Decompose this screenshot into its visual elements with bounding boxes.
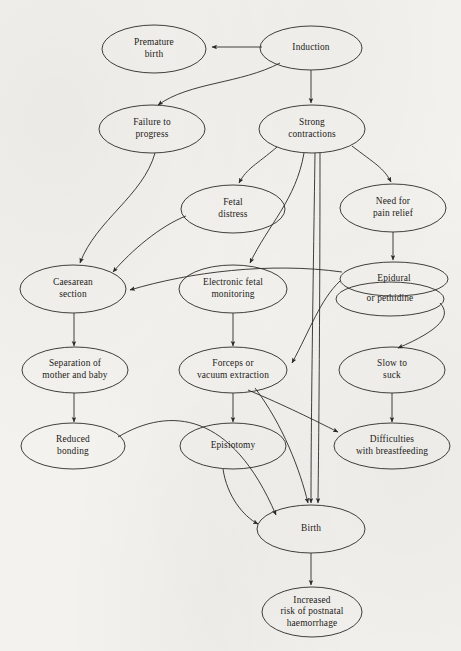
node-premature_birth[interactable]: Prematurebirth [102, 25, 206, 73]
node-label-caesarean_section: Caesarean [53, 277, 93, 287]
node-label-strong_contractions: contractions [288, 129, 336, 139]
node-label-caesarean_section: section [59, 289, 87, 299]
node-label-separation_mother_baby: Separation of [49, 358, 102, 368]
node-label-reduced_bonding: bonding [57, 446, 89, 456]
node-label-failure_to_progress: Failure to [133, 117, 171, 127]
edge-episiotomy-to-birth [223, 469, 258, 524]
edge-strong_contractions-to-electronic_fetal_mon [250, 153, 304, 263]
edge-or_pethidine-to-slow_to_suck [398, 303, 444, 348]
node-label-episiotomy: Episiotomy [211, 440, 256, 450]
node-label-forceps_vacuum: Forceps or [212, 358, 254, 368]
node-episiotomy[interactable]: Episiotomy [180, 423, 286, 469]
edge-fetal_distress-to-caesarean_section [113, 216, 186, 272]
node-label-postnatal_haemorrhage: haemorrhage [287, 618, 338, 628]
node-or_pethidine[interactable]: or pethidine [336, 282, 444, 316]
node-caesarean_section[interactable]: Caesareansection [20, 265, 126, 313]
node-label-or_pethidine: or pethidine [367, 293, 414, 303]
node-label-electronic_fetal_mon: Electronic fetal [203, 277, 263, 287]
node-fetal_distress[interactable]: Fetaldistress [181, 185, 285, 233]
node-label-premature_birth: birth [145, 49, 164, 59]
node-label-fetal_distress: Fetal [223, 197, 243, 207]
edge-strong_contractions-to-birth [311, 153, 315, 503]
node-forceps_vacuum[interactable]: Forceps orvacuum extraction [179, 347, 287, 393]
node-label-need_for_pain_relief: Need for [376, 196, 411, 206]
node-separation_mother_baby[interactable]: Separation ofmother and baby [22, 347, 128, 393]
node-failure_to_progress[interactable]: Failure toprogress [99, 105, 205, 153]
node-reduced_bonding[interactable]: Reducedbonding [21, 423, 125, 469]
edge-induction-to-failure_to_progress [158, 63, 280, 105]
node-label-difficulties_breastfeed: Difficulties [370, 434, 415, 444]
node-label-separation_mother_baby: mother and baby [42, 370, 107, 380]
node-label-difficulties_breastfeed: with breastfeeding [356, 446, 428, 456]
node-induction[interactable]: Induction [260, 26, 362, 70]
edge-strong_contractions-to-need_for_pain_relief [352, 146, 391, 182]
edge-strong_contractions-to-birth_b [318, 153, 320, 503]
node-birth[interactable]: Birth [257, 505, 365, 553]
node-label-slow_to_suck: Slow to [377, 358, 407, 368]
node-label-slow_to_suck: suck [383, 370, 401, 380]
node-label-premature_birth: Premature [134, 37, 174, 47]
node-electronic_fetal_mon[interactable]: Electronic fetalmonitoring [179, 265, 287, 313]
node-label-strong_contractions: Strong [299, 117, 325, 127]
node-label-forceps_vacuum: vacuum extraction [197, 370, 269, 380]
diagram-canvas: PrematurebirthInductionFailure toprogres… [0, 0, 461, 651]
edge-epidural-to-forceps_vacuum [292, 281, 340, 363]
node-difficulties_breastfeed[interactable]: Difficultieswith breastfeeding [334, 423, 450, 469]
edge-strong_contractions-to-fetal_distress [239, 147, 277, 183]
node-postnatal_haemorrhage[interactable]: Increasedrisk of postnatalhaemorrhage [262, 587, 362, 637]
node-strong_contractions[interactable]: Strongcontractions [259, 105, 365, 153]
node-label-postnatal_haemorrhage: Increased [293, 595, 330, 605]
node-epidural[interactable]: Epidural [340, 262, 448, 296]
flowchart-svg: PrematurebirthInductionFailure toprogres… [0, 0, 461, 651]
node-label-electronic_fetal_mon: monitoring [211, 289, 254, 299]
node-label-failure_to_progress: progress [136, 129, 169, 139]
node-label-fetal_distress: distress [218, 209, 248, 219]
node-label-birth: Birth [301, 523, 321, 533]
node-slow_to_suck[interactable]: Slow tosuck [339, 347, 445, 393]
edge-failure_to_progress-to-caesarean_section [80, 153, 155, 263]
node-need_for_pain_relief[interactable]: Need forpain relief [340, 184, 446, 232]
node-label-induction: Induction [292, 42, 329, 52]
node-layer: PrematurebirthInductionFailure toprogres… [20, 25, 450, 637]
node-label-reduced_bonding: Reduced [56, 434, 90, 444]
node-label-need_for_pain_relief: pain relief [373, 208, 414, 218]
node-label-postnatal_haemorrhage: risk of postnatal [281, 606, 344, 616]
